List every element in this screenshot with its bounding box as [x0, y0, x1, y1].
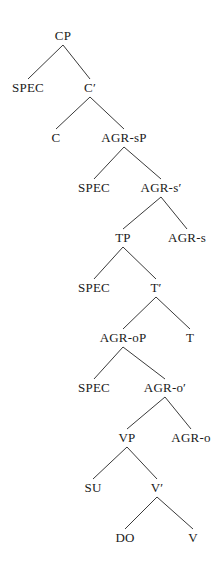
tree-node-spec1: SPEC	[12, 81, 44, 94]
tree-edge-tbar-t	[156, 297, 190, 329]
tree-edge-tp-spec3	[94, 247, 123, 279]
tree-node-cp: CP	[55, 29, 71, 42]
tree-edge-agrop-agrobar	[123, 347, 165, 379]
tree-node-t: T	[186, 331, 194, 344]
tree-node-su: SU	[84, 481, 101, 494]
tree-edge-cbar-agrsp	[90, 97, 124, 129]
tree-edge-cp-cbar	[63, 45, 90, 79]
syntax-tree-figure: CPSPECC′CAGR-sPSPECAGR-s′TPAGR-sSPECT′AG…	[0, 0, 221, 567]
tree-edge-agrobar-vp	[127, 397, 165, 429]
tree-node-spec2: SPEC	[78, 181, 110, 194]
tree-node-agrs: AGR-s	[168, 231, 206, 244]
tree-edge-tbar-agrop	[123, 297, 156, 329]
tree-node-agrop: AGR-oP	[100, 331, 147, 344]
tree-node-agro: AGR-o	[171, 431, 210, 444]
tree-edge-agrsp-agrsbar	[124, 147, 161, 179]
tree-edge-tp-tbar	[123, 247, 156, 279]
tree-node-spec3: SPEC	[78, 281, 110, 294]
tree-edge-agrsbar-tp	[123, 197, 161, 229]
tree-node-tp: TP	[115, 231, 131, 244]
tree-edge-vbar-do	[125, 497, 157, 529]
tree-edge-agrop-spec4	[94, 347, 123, 379]
tree-edge-vp-vbar	[127, 447, 157, 479]
tree-node-tbar: T′	[150, 281, 161, 294]
tree-edge-agrsbar-agrs	[161, 197, 187, 229]
tree-node-agrsp: AGR-sP	[101, 131, 146, 144]
tree-node-v: V	[188, 531, 198, 544]
tree-edge-agrsp-spec2	[94, 147, 124, 179]
tree-node-vp: VP	[118, 431, 135, 444]
tree-node-agrsbar: AGR-s′	[141, 181, 182, 194]
tree-edge-vbar-v	[157, 497, 193, 529]
tree-node-do: DO	[115, 531, 134, 544]
tree-edge-agrobar-agro	[165, 397, 191, 429]
tree-edge-vp-su	[93, 447, 127, 479]
tree-edge-cbar-c	[56, 97, 90, 129]
tree-node-vbar: V′	[151, 481, 164, 494]
tree-edge-cp-spec1	[28, 45, 63, 79]
tree-node-agrobar: AGR-o′	[144, 381, 186, 394]
tree-node-spec4: SPEC	[78, 381, 110, 394]
tree-node-cbar: C′	[84, 81, 96, 94]
tree-node-c: C	[52, 131, 61, 144]
